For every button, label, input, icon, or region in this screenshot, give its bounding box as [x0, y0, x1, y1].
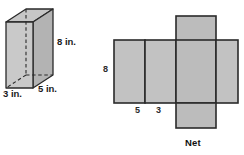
net-panel-b-label: 3 — [156, 106, 161, 115]
net-height-label: 8 — [103, 65, 108, 74]
prism-right-face — [33, 9, 53, 88]
net-panel-1 — [114, 40, 145, 103]
net-drawing — [112, 12, 242, 132]
net-caption: Net — [185, 138, 201, 148]
figure-canvas: 8 in. 5 in. 3 in. 8 5 3 Net — [0, 0, 244, 155]
net-panel-2 — [145, 40, 176, 103]
prism-width-label: 3 in. — [3, 89, 22, 99]
net-panel-a-label: 5 — [135, 106, 140, 115]
net-panel-3 — [176, 40, 216, 103]
net-panel-4 — [216, 40, 238, 103]
net-flap-bottom — [176, 103, 216, 128]
prism-height-label: 8 in. — [57, 37, 76, 47]
prism-depth-label: 5 in. — [38, 84, 57, 94]
prism-front-face — [6, 22, 33, 88]
